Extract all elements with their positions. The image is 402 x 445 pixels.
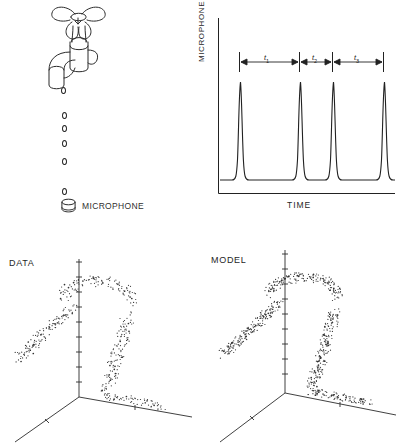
data-attractor-panel: DATA	[0, 238, 200, 445]
axes-3d	[15, 259, 192, 442]
faucet-icon	[42, 2, 122, 94]
water-drop	[62, 125, 67, 132]
water-drop	[62, 112, 67, 119]
interval-label-t3: t3	[354, 53, 359, 64]
water-drop	[62, 188, 67, 195]
interval-label-t1: t1	[264, 53, 269, 64]
x-axis-label: TIME	[196, 200, 402, 210]
axes-3d	[220, 250, 396, 442]
microphone-label: MICROPHONE	[82, 201, 144, 211]
data-attractor-plot	[0, 238, 200, 445]
scatter-points	[15, 276, 166, 411]
signal-trace	[220, 82, 395, 180]
model-attractor-panel: MODEL	[200, 238, 402, 445]
model-attractor-plot	[200, 238, 402, 445]
signal-plot-area	[196, 0, 402, 206]
interval-label-t2: t2	[312, 53, 317, 64]
water-drop	[62, 158, 67, 165]
microphone-signal-chart: MICROPHONE OUTPUT t1 t2	[196, 0, 402, 232]
water-drop	[62, 140, 67, 147]
scatter-points	[219, 272, 373, 405]
microphone-icon	[60, 198, 77, 214]
water-drop	[61, 87, 66, 94]
chart-axes	[219, 18, 396, 194]
faucet-schematic-panel: MICROPHONE	[0, 0, 196, 232]
